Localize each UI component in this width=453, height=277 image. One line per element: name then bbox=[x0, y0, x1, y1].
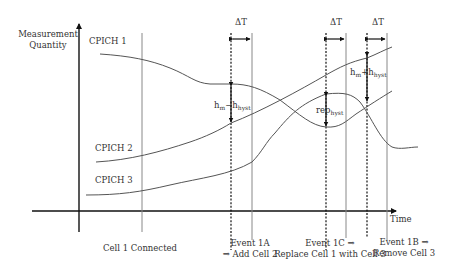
event-1c-label-line2: Replace Cell 1 with Cell 3 bbox=[274, 249, 386, 259]
cpich2-label: CPICH 2 bbox=[95, 143, 133, 153]
y-axis-label-line2: Quantity bbox=[29, 40, 67, 50]
event-1c-label-line1: Event 1C ⇒ bbox=[305, 238, 354, 248]
event-1b-label-line1: Event 1B ⇒ bbox=[379, 237, 428, 247]
rep-hyst-label: rephyst bbox=[316, 105, 344, 117]
delta-t-label-3: ΔT bbox=[372, 17, 384, 27]
event-1b-label-line2: Remove Cell 3 bbox=[373, 248, 435, 258]
event-1a-label-line2: ⇒ Add Cell 2 bbox=[223, 249, 278, 259]
cpich3-label: CPICH 3 bbox=[95, 175, 133, 185]
x-axis-label: Time bbox=[390, 214, 411, 224]
delta-t-label-2: ΔT bbox=[330, 17, 342, 27]
event-1a-label-line1: Event 1A bbox=[230, 238, 270, 248]
cpich1-curve bbox=[100, 54, 392, 127]
cpich1-label: CPICH 1 bbox=[89, 36, 127, 46]
hm-plus-hyst-label: hm+hhyst bbox=[350, 67, 387, 79]
handover-events-diagram: Measurement Quantity Time ΔT ΔT ΔT CPICH… bbox=[0, 0, 453, 277]
cell1-connected-label: Cell 1 Connected bbox=[103, 243, 178, 253]
y-axis-label-line1: Measurement bbox=[18, 29, 78, 39]
delta-t-label-1: ΔT bbox=[235, 17, 247, 27]
hm-minus-hyst-label: hm−hhyst bbox=[214, 100, 251, 112]
